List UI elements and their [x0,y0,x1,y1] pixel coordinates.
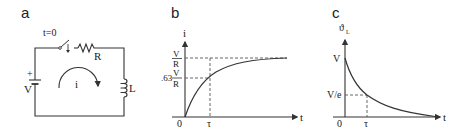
switch-label: t=0 [43,27,56,38]
x-tick-tau: τ [207,118,211,129]
y-tick-v-over-e: V/e [327,89,342,100]
inductor-icon [121,79,127,97]
svg-text:R: R [173,79,179,89]
switch [59,40,70,53]
x-axis-label: t [300,111,303,123]
current-label: i [75,78,78,90]
x-tick-tau: τ [364,118,368,129]
y-axis-subscript: L [346,29,350,35]
svg-text:V: V [173,49,180,59]
source-label: V [24,83,32,95]
wire-top-left [35,48,59,72]
battery-polarity-label: + [27,68,33,79]
voltage-decay-curve [345,58,435,117]
panel-a-label: a [21,4,30,21]
resistor-label: R [94,50,102,62]
panel-c-label: c [332,4,340,21]
panel-b-chart: b i t 0 τ V R .63 V R [161,4,303,129]
origin-label: 0 [177,118,182,129]
current-rise-curve [185,58,287,117]
wire-bottom [35,90,124,116]
rl-circuit-figure: a t=0 R L + V [0,0,463,134]
y-tick-063-v-over-r: .63 V R [161,68,182,89]
svg-text:.63: .63 [161,73,173,83]
inductor-label: L [129,82,136,94]
y-tick-v: V [333,53,341,64]
current-direction-arrow-icon [59,67,98,88]
svg-text:V: V [173,68,180,78]
panel-c-chart: c ϑ L t 0 τ V V/e [327,4,446,129]
y-axis-label: ϑ [339,22,344,33]
x-axis-label: t [443,111,446,123]
y-axis-label: i [183,27,186,39]
panel-a-circuit: a t=0 R L + V [21,4,136,116]
panel-b-label: b [171,4,179,21]
y-tick-v-over-r: V R [172,49,182,69]
origin-label: 0 [337,118,342,129]
